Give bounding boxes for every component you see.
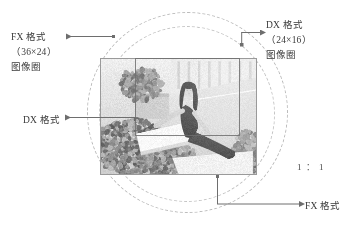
format-comparison-figure: FX 格式 （36×24） 图像圈 DX 格式 （24×16） 图像圈 DX 格… bbox=[0, 0, 353, 239]
label-fx-line3: 图像圈 bbox=[11, 60, 57, 75]
label-dx-format: DX 格式 bbox=[23, 113, 60, 128]
label-dx-line1: DX 格式 bbox=[266, 18, 312, 33]
leader-fx-top-left bbox=[66, 35, 115, 38]
leader-dx-top-right bbox=[240, 33, 261, 47]
label-dx-line2: （24×16） bbox=[266, 33, 312, 48]
leader-fx-bottom-right bbox=[216, 175, 300, 204]
label-dx-line3: 图像圈 bbox=[266, 48, 312, 63]
label-fx-line1: FX 格式 bbox=[11, 30, 57, 45]
photo-canvas bbox=[101, 59, 256, 174]
label-crop-ratio: 1 ： 1 bbox=[297, 160, 325, 175]
label-dx-image-circle: DX 格式 （24×16） 图像圈 bbox=[266, 18, 312, 63]
label-fx-image-circle: FX 格式 （36×24） 图像圈 bbox=[11, 30, 57, 75]
label-fx-format: FX 格式 bbox=[305, 199, 341, 214]
label-fx-line2: （36×24） bbox=[11, 45, 57, 60]
sample-photograph bbox=[100, 58, 257, 175]
